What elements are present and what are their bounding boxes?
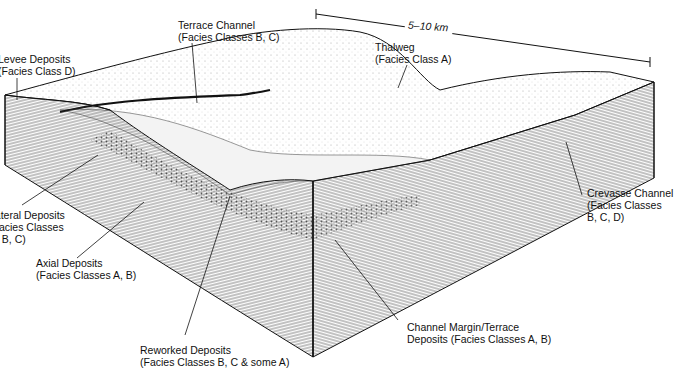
block-diagram [0, 0, 677, 377]
label-axial-deposits: Axial Deposits (Facies Classes A, B) [36, 257, 136, 281]
label-terrace-channel: Terrace Channel (Facies Classes B, C) [178, 19, 280, 43]
label-levee-deposits: Levee Deposits (Facies Class D) [0, 53, 76, 77]
label-lateral-deposits: Lateral Deposits (Facies Classes A, B, C… [0, 209, 65, 245]
label-crevasse-channel: Crevasse Channel (Facies Classes B, C, D… [587, 187, 673, 223]
label-channel-margin: Channel Margin/Terrace Deposits (Facies … [407, 321, 551, 345]
label-thalweg: Thalweg (Facies Class A) [375, 41, 451, 65]
label-reworked-deposits: Reworked Deposits (Facies Classes B, C &… [140, 344, 289, 368]
